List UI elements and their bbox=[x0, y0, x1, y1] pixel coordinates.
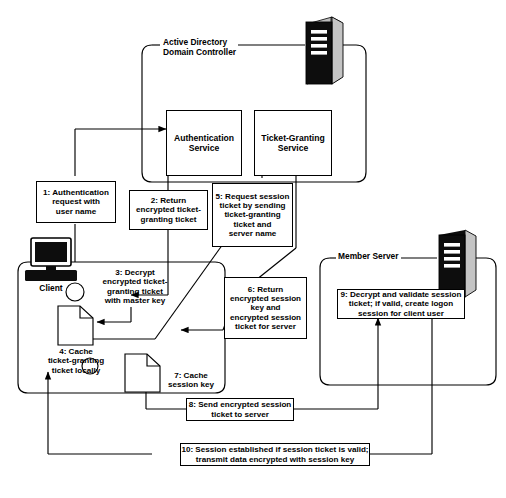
step-box-6[interactable]: 6: Return encrypted session key and encr… bbox=[224, 277, 307, 339]
document-icon-sessionkey-body bbox=[125, 354, 160, 392]
server-icon-member-server bbox=[439, 230, 476, 297]
connector-layer bbox=[0, 0, 506, 498]
step-box-1[interactable]: 1: Authentication request with user name bbox=[36, 181, 116, 223]
step-box-5[interactable]: 5: Request session ticket by sending tic… bbox=[212, 183, 293, 247]
step-label-3: 3: Decrypt encrypted ticket- granting ti… bbox=[92, 268, 178, 306]
document-icon-tgt-body bbox=[58, 306, 93, 345]
step-box-9[interactable]: 9: Decrypt and validate session ticket; … bbox=[337, 289, 465, 319]
service-box-authentication-service[interactable]: Authentication Service bbox=[166, 110, 242, 176]
step-box-10[interactable]: 10: Session established if session ticke… bbox=[180, 443, 370, 466]
step-label-4: 4: Cache ticket-granting ticket locally bbox=[32, 347, 120, 375]
step-box-8[interactable]: 8: Send encrypted session ticket to serv… bbox=[186, 398, 294, 421]
service-box-ticket-granting-service[interactable]: Ticket-Granting Service bbox=[254, 110, 332, 176]
zone-label-active-directory: Active Directory Domain Controller bbox=[161, 38, 238, 58]
zone-label-member-server: Member Server bbox=[336, 252, 401, 262]
server-icon-active-directory bbox=[306, 17, 343, 84]
kerberos-flow-diagram: Active Directory Domain Controller Membe… bbox=[0, 0, 506, 498]
desktop-computer-icon-client bbox=[25, 238, 77, 281]
step-label-7: 7: Cache session key bbox=[160, 371, 222, 390]
step-box-2[interactable]: 2: Return encrypted ticket- granting tic… bbox=[129, 190, 208, 230]
zone-label-client: Client bbox=[24, 283, 78, 293]
